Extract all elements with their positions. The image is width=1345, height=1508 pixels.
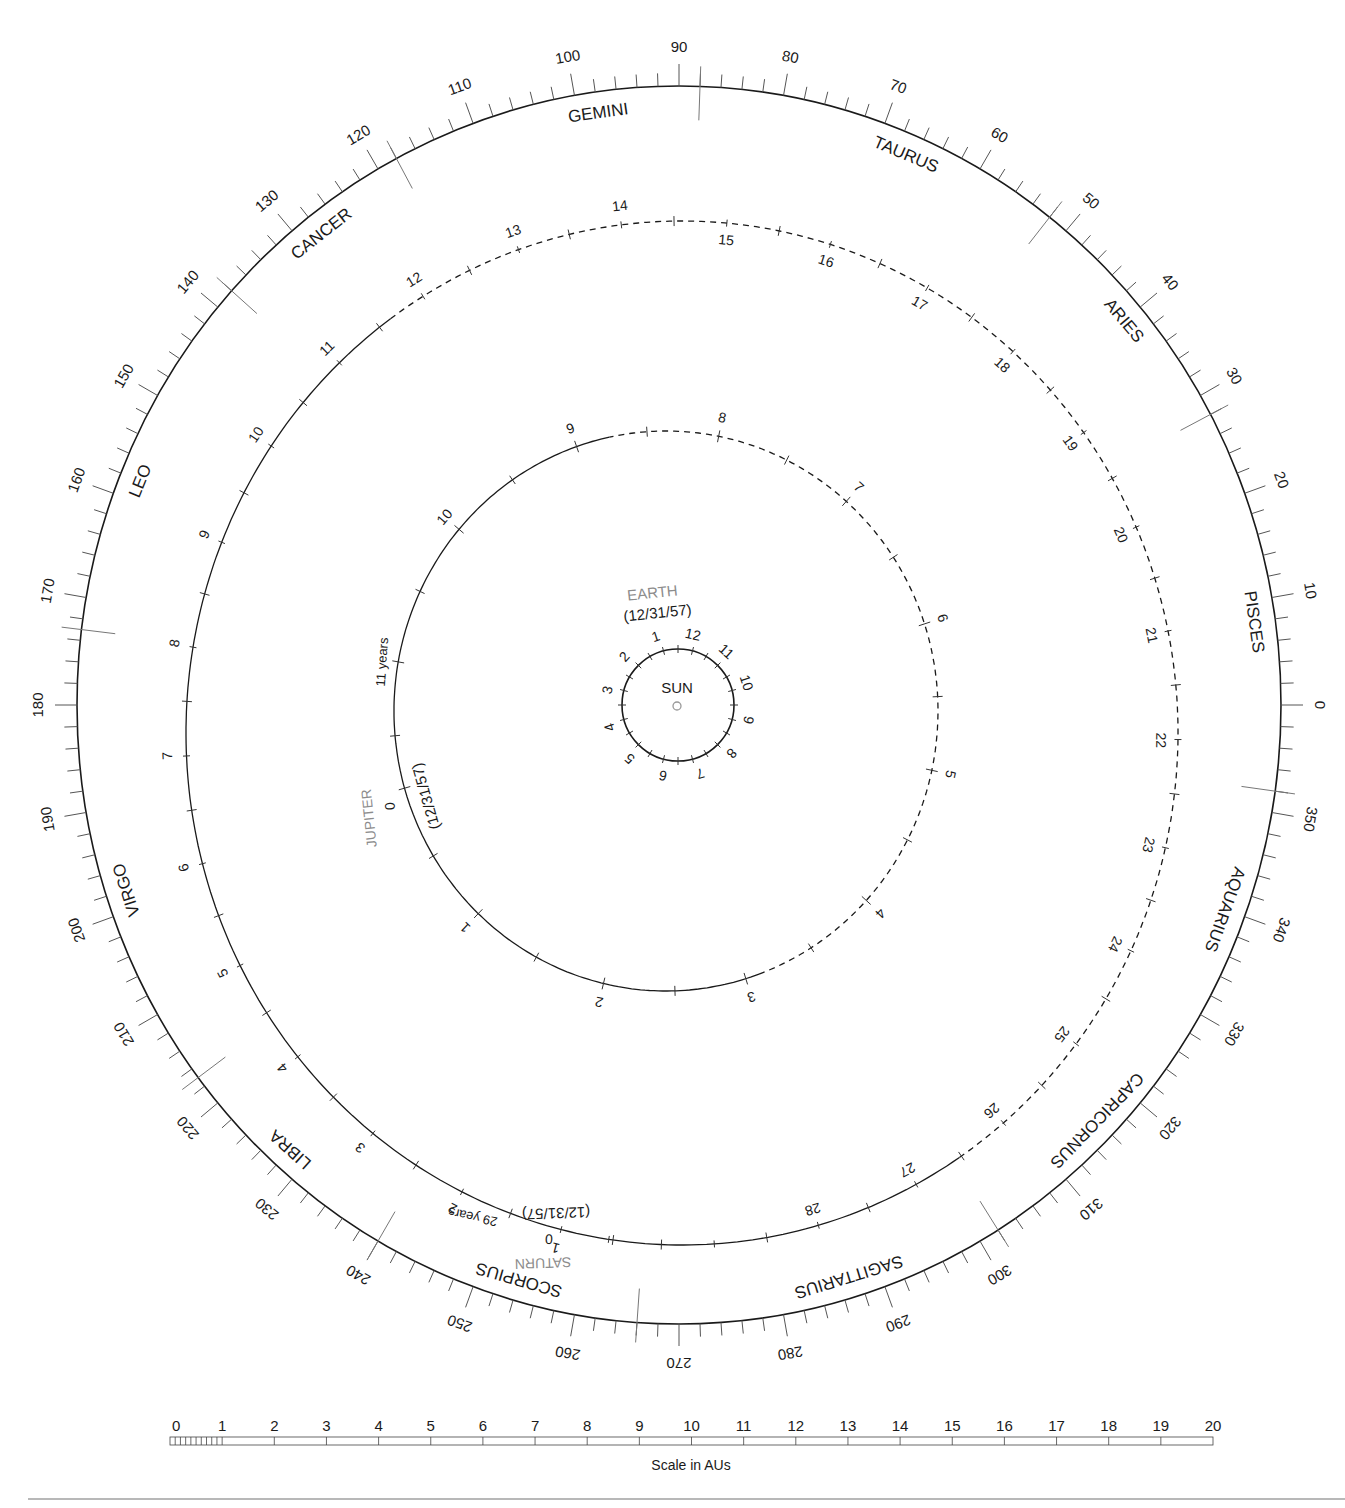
degree-tick xyxy=(980,1241,991,1260)
zodiac-labels: PISCESARIESTAURUSGEMINICANCERLEOVIRGOLIB… xyxy=(109,99,1268,1302)
scale-label: 5 xyxy=(427,1417,435,1434)
degree-tick xyxy=(571,1315,575,1337)
degree-tick xyxy=(1229,448,1241,453)
degree-tick xyxy=(237,1135,246,1144)
earth-month-label: 5 xyxy=(621,750,638,767)
degree-tick xyxy=(1211,996,1222,1002)
degree-tick xyxy=(109,468,121,473)
orbit-subtick xyxy=(784,456,788,465)
scale-label: 14 xyxy=(892,1417,909,1434)
orbit-subtick xyxy=(727,220,728,227)
degree-tick xyxy=(181,1069,192,1077)
saturn-zero-label: 0 xyxy=(545,1231,554,1247)
degree-tick xyxy=(825,1306,828,1319)
degree-tick xyxy=(267,235,276,245)
degree-tick xyxy=(409,137,415,149)
degree-tick xyxy=(449,119,454,131)
degree-tick xyxy=(139,385,158,396)
orbit-subtick xyxy=(421,293,425,299)
degree-tick xyxy=(924,128,929,140)
scale-label: 6 xyxy=(479,1417,487,1434)
degree-tick xyxy=(905,119,910,131)
orbit-tick xyxy=(959,1152,965,1160)
degree-tick xyxy=(593,79,595,92)
degree-label: 60 xyxy=(988,123,1011,146)
degree-tick xyxy=(109,937,121,942)
degree-tick xyxy=(825,92,828,105)
degree-tick xyxy=(1097,1150,1106,1159)
degree-tick xyxy=(1220,976,1232,982)
degree-tick xyxy=(924,1270,929,1282)
earth-month-label: 10 xyxy=(737,673,757,693)
degree-tick xyxy=(267,1165,276,1175)
orbit-tick-label: 9 xyxy=(195,527,213,540)
degree-tick xyxy=(845,1300,849,1312)
scale-label: 20 xyxy=(1205,1417,1222,1434)
saturn-name-label: SATURN xyxy=(515,1254,572,1272)
degree-label: 250 xyxy=(445,1312,474,1337)
ecliptic-circle xyxy=(77,86,1281,1324)
degree-tick xyxy=(237,266,246,275)
scale-label: 18 xyxy=(1100,1417,1117,1434)
degree-tick xyxy=(742,1321,743,1334)
orbit-tick-label: 19 xyxy=(1060,432,1082,454)
orbit-tick xyxy=(842,497,850,506)
orbit-tick xyxy=(1108,476,1117,481)
degree-tick xyxy=(943,1261,949,1273)
orbit-subtick xyxy=(621,221,622,228)
orbit-tick-label: 26 xyxy=(981,1100,1003,1122)
degree-tick xyxy=(82,552,95,555)
saturn-orbit: 1234567891011121314151617181920212223242… xyxy=(159,197,1181,1273)
degree-tick xyxy=(1200,1015,1219,1026)
degree-tick xyxy=(1166,334,1177,342)
degree-tick xyxy=(318,194,326,205)
degree-tick xyxy=(1112,266,1121,275)
jupiter-orbit: 12345678910011 years(12/31/57)JUPITER xyxy=(358,409,960,1011)
scale-label: 2 xyxy=(270,1417,278,1434)
degree-label: 280 xyxy=(777,1343,805,1364)
orbit-future-path xyxy=(609,431,938,974)
orbit-tick-label: 11 xyxy=(316,337,338,359)
scale-label: 15 xyxy=(944,1417,961,1434)
orbit-tick-label: 4 xyxy=(273,1060,290,1076)
orbit-tick-label: 10 xyxy=(433,506,455,528)
degree-tick xyxy=(88,876,100,880)
degree-tick xyxy=(1200,385,1219,396)
degree-label: 180 xyxy=(29,692,46,717)
orbit-tick xyxy=(1171,685,1181,686)
zodiac-boundary xyxy=(62,627,116,634)
scale-title: Scale in AUs xyxy=(651,1457,730,1473)
degree-tick xyxy=(615,1321,616,1334)
degree-tick xyxy=(1190,1033,1201,1040)
degree-tick xyxy=(885,103,893,124)
scale-label: 13 xyxy=(840,1417,857,1434)
orbit-tick-label: 6 xyxy=(175,862,193,874)
scale-label: 0 xyxy=(172,1417,180,1434)
degree-label: 80 xyxy=(781,47,800,67)
zodiac-boundary xyxy=(1241,786,1294,794)
degree-tick xyxy=(126,976,138,982)
scale-label: 16 xyxy=(996,1417,1013,1434)
degree-tick xyxy=(763,79,765,92)
degree-tick xyxy=(157,370,168,377)
orbit-tick xyxy=(240,490,249,495)
degree-tick xyxy=(1097,250,1106,259)
degree-tick xyxy=(409,1261,415,1273)
scale-label: 17 xyxy=(1048,1417,1065,1434)
zodiac-libra: LIBRA xyxy=(265,1125,315,1172)
degree-tick xyxy=(551,87,554,100)
degree-label: 300 xyxy=(985,1262,1015,1289)
orbit-tick-label: 28 xyxy=(803,1200,823,1220)
orbit-tick xyxy=(919,622,930,626)
orbit-past-path xyxy=(186,319,959,1245)
degree-tick xyxy=(636,75,637,88)
degree-tick xyxy=(1153,316,1163,324)
degree-tick xyxy=(943,137,949,149)
degree-tick xyxy=(551,1310,554,1323)
degree-tick xyxy=(1278,770,1291,771)
orbit-tick xyxy=(1170,793,1180,794)
earth-month-label: 6 xyxy=(657,767,668,784)
degree-tick xyxy=(1033,194,1041,205)
orbit-subtick xyxy=(933,696,943,697)
orbit-subtick xyxy=(903,838,912,843)
